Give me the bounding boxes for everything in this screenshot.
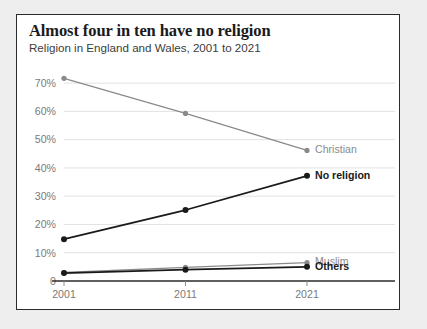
data-point xyxy=(183,111,188,116)
series-label-christian: Christian xyxy=(315,143,357,155)
data-point xyxy=(304,264,310,270)
data-point xyxy=(304,173,310,179)
series-label-others: Others xyxy=(315,260,349,272)
y-axis-tick-label: 30% xyxy=(35,190,57,202)
y-axis-labels-group: 010%20%30%40%50%60%70% xyxy=(35,77,57,287)
x-axis-tick-label: 2011 xyxy=(174,288,197,300)
data-point xyxy=(304,148,309,153)
page-background: Almost four in ten have no religion Reli… xyxy=(0,0,427,329)
y-axis-tick-label: 50% xyxy=(35,133,57,145)
data-point xyxy=(61,270,67,276)
data-point xyxy=(183,267,189,273)
y-axis-tick-label: 70% xyxy=(35,77,57,89)
plot-area: 010%20%30%40%50%60%70% 200120112021 Chri… xyxy=(17,59,399,309)
y-axis-tick-label: 20% xyxy=(35,218,57,230)
y-axis-tick-label: 10% xyxy=(35,247,57,259)
y-axis-tick-label: 40% xyxy=(35,162,57,174)
series-group xyxy=(61,76,310,276)
y-axis-tick-label: 60% xyxy=(35,105,57,117)
series-label-no-religion: No religion xyxy=(315,169,370,181)
data-point xyxy=(61,236,67,242)
x-axis-group: 200120112021 xyxy=(52,281,395,300)
data-point xyxy=(61,76,66,81)
x-axis-tick-label: 2001 xyxy=(52,288,76,300)
chart-card: Almost four in ten have no religion Reli… xyxy=(16,14,400,310)
chart-subtitle: Religion in England and Wales, 2001 to 2… xyxy=(29,41,261,54)
data-point xyxy=(183,207,189,213)
line-chart-svg: 010%20%30%40%50%60%70% 200120112021 Chri… xyxy=(17,59,398,309)
chart-title: Almost four in ten have no religion xyxy=(29,21,271,41)
x-axis-tick-label: 2021 xyxy=(295,288,319,300)
